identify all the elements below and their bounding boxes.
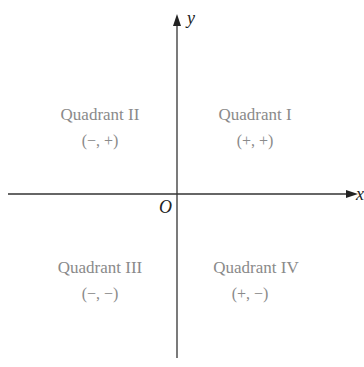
quadrant-4-label: Quadrant IV: [200, 258, 312, 278]
quadrant-4-signs: (+, −): [200, 284, 300, 304]
y-axis-label: y: [187, 8, 195, 28]
quadrant-3-label: Quadrant III: [45, 258, 155, 278]
quadrant-1-label: Quadrant I: [205, 105, 305, 125]
quadrant-2-signs: (−, +): [50, 131, 150, 151]
quadrant-2-label: Quadrant II: [50, 105, 150, 125]
quadrant-1-signs: (+, +): [205, 131, 305, 151]
origin-label: O: [159, 197, 172, 217]
x-axis-label: x: [356, 184, 364, 204]
y-axis-arrow-icon: [173, 14, 181, 26]
quadrant-3-signs: (−, −): [45, 284, 155, 304]
